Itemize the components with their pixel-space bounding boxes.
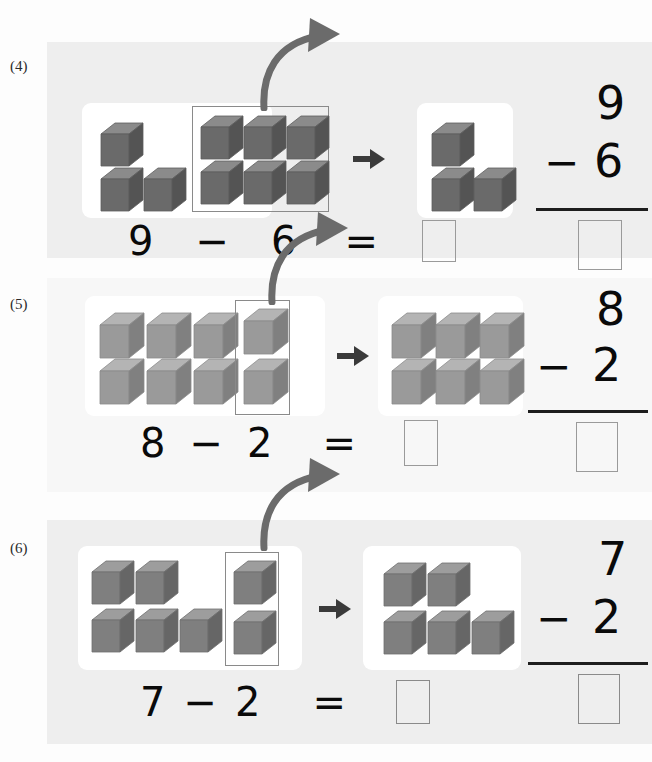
cube: [468, 608, 518, 660]
problem-4-index: (4): [10, 58, 28, 75]
problem-5-index: (5): [10, 296, 28, 313]
cube: [176, 606, 226, 658]
equation-minuend: 9: [128, 221, 153, 261]
equation-answer-box[interactable]: [422, 220, 456, 262]
equation-answer-box[interactable]: [404, 420, 438, 466]
vertical-minus-sign: −: [544, 142, 579, 184]
vertical-rule: [528, 410, 648, 413]
cube: [240, 356, 292, 410]
cube: [132, 558, 182, 610]
problem-5: (5): [0, 268, 652, 498]
cube: [380, 608, 430, 660]
cube: [132, 606, 182, 658]
cube: [88, 558, 138, 610]
problem-6-vertical-calc: 7 − 2: [520, 536, 652, 726]
vertical-minuend: 7: [598, 536, 627, 582]
cube: [380, 560, 430, 612]
problem-4: (4): [0, 28, 652, 258]
cube: [230, 608, 280, 660]
cube: [283, 158, 333, 210]
equation-subtrahend: 6: [271, 221, 296, 261]
equation-equals-sign: =: [322, 423, 356, 463]
vertical-minus-sign: −: [536, 346, 571, 388]
problem-4-vertical-calc: 9 − 6: [520, 80, 652, 270]
vertical-minuend: 8: [596, 286, 625, 332]
equation-equals-sign: =: [344, 221, 378, 261]
cube: [230, 558, 280, 610]
transform-arrow-icon: [351, 146, 387, 176]
vertical-answer-box[interactable]: [578, 674, 620, 724]
vertical-subtrahend: 2: [592, 342, 621, 388]
problem-6-equation: 7 − 2 =: [140, 680, 430, 724]
cube: [140, 165, 190, 217]
problem-5-vertical-calc: 8 − 2: [520, 286, 652, 476]
vertical-minuend: 9: [596, 80, 625, 126]
vertical-answer-box[interactable]: [576, 422, 618, 472]
vertical-subtrahend: 6: [594, 138, 623, 184]
vertical-answer-box[interactable]: [578, 220, 622, 270]
equation-answer-box[interactable]: [396, 680, 430, 724]
vertical-rule: [528, 662, 648, 665]
equation-subtrahend: 2: [247, 423, 272, 463]
cube: [96, 356, 148, 410]
vertical-rule: [536, 208, 648, 211]
equation-minus-sign: −: [189, 423, 223, 463]
transform-arrow-icon: [317, 596, 353, 626]
problem-4-equation: 9 − 6 =: [128, 220, 456, 262]
problem-6: (6): [0, 508, 652, 758]
cube: [143, 356, 195, 410]
equation-minus-sign: −: [183, 682, 217, 722]
cube: [424, 560, 474, 612]
equation-minuend: 7: [140, 682, 165, 722]
cube: [470, 165, 520, 217]
equation-minuend: 8: [140, 423, 165, 463]
transform-arrow-icon: [335, 343, 371, 373]
equation-subtrahend: 2: [235, 682, 260, 722]
problem-6-index: (6): [10, 540, 28, 557]
vertical-subtrahend: 2: [592, 594, 621, 640]
equation-equals-sign: =: [312, 682, 346, 722]
cube: [240, 306, 292, 360]
cube: [88, 606, 138, 658]
cube: [424, 608, 474, 660]
problem-5-equation: 8 − 2 =: [140, 420, 438, 466]
vertical-minus-sign: −: [536, 598, 571, 640]
equation-minus-sign: −: [195, 221, 229, 261]
worksheet-page: (4): [0, 0, 652, 762]
